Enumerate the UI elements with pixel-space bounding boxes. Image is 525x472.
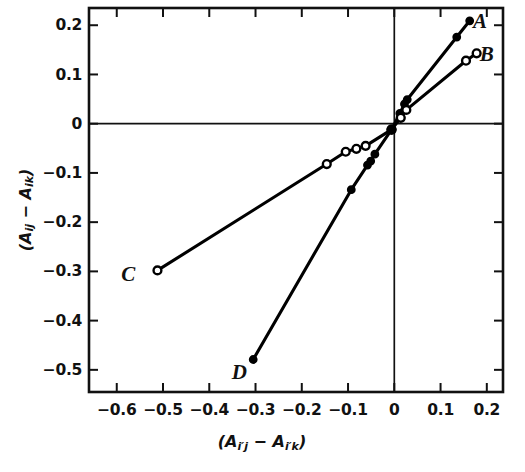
y-tick-label-3: −0.1 [43, 164, 82, 182]
y-title-sub2: ik [23, 176, 36, 187]
data-point-c-2 [342, 148, 350, 156]
data-point-b-1 [397, 114, 405, 122]
y-tick-label-1: 0.1 [55, 66, 82, 84]
data-point-a-3 [404, 96, 411, 103]
y-tick-label-4: −0.2 [43, 213, 82, 231]
series-label-d: D [232, 360, 247, 385]
data-point-b-2 [402, 106, 410, 114]
x-title-open: (A [218, 432, 238, 451]
y-title-open: (A [16, 232, 35, 252]
data-point-c-0 [154, 267, 162, 275]
y-tick-label-6: −0.4 [43, 312, 82, 330]
y-tick-label-0: 0.2 [55, 16, 82, 34]
data-series-lines [157, 21, 476, 360]
data-point-c-1 [323, 160, 331, 168]
x-tick-label-0: −0.6 [97, 401, 136, 419]
series-label-a: A [473, 9, 487, 34]
y-title-minus: − A [16, 187, 35, 224]
figure-container: −0.6−0.5−0.4−0.3−0.2−0.100.10.2 0.20.10−… [0, 0, 525, 472]
data-point-c-4 [362, 142, 370, 150]
x-tick-label-3: −0.3 [236, 401, 275, 419]
x-tick-label-4: −0.2 [282, 401, 321, 419]
x-title-sub2: i′k [285, 440, 299, 453]
data-point-c-3 [352, 145, 360, 153]
series-label-c: C [121, 262, 135, 287]
y-axis-title: (Aij − Aik) [16, 169, 37, 252]
data-point-a-4 [453, 33, 460, 40]
plot-frame [89, 8, 503, 392]
y-title-close: ) [16, 169, 35, 176]
x-tick-label-8: 0.2 [474, 401, 501, 419]
data-point-d-0 [250, 356, 257, 363]
x-tick-label-1: −0.5 [143, 401, 182, 419]
data-point-d-3 [367, 158, 374, 165]
data-point-d-5 [388, 126, 395, 133]
zero-reference-lines [89, 8, 503, 392]
data-point-d-4 [371, 151, 378, 158]
y-tick-label-5: −0.3 [43, 262, 82, 280]
x-title-sub1: i′j [238, 440, 248, 453]
x-tick-label-7: 0.1 [427, 401, 454, 419]
y-tick-label-7: −0.5 [43, 361, 82, 379]
series-label-b: B [480, 41, 494, 66]
data-point-d-1 [348, 186, 355, 193]
x-axis-title: (Ai′j − Ai′k) [218, 432, 306, 453]
y-title-sub1: ij [23, 224, 36, 232]
data-point-b-3 [462, 57, 470, 65]
axis-ticks [89, 8, 503, 392]
x-title-minus: − A [248, 432, 285, 451]
x-tick-label-5: −0.1 [328, 401, 367, 419]
y-tick-label-2: 0 [72, 115, 83, 133]
x-title-close: ) [299, 432, 306, 451]
x-tick-label-6: 0 [389, 401, 400, 419]
x-tick-label-2: −0.4 [190, 401, 229, 419]
